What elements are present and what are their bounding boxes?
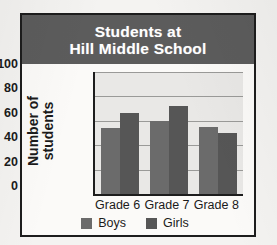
legend-label-boys: Boys [98, 216, 126, 230]
y-tick-80: 80 [4, 81, 18, 95]
chart-title-banner: Students at Hill Middle School [22, 15, 254, 64]
x-tick-grade-8: Grade 8 [194, 198, 239, 212]
y-tick-40: 40 [4, 130, 18, 144]
legend-label-girls: Girls [163, 216, 189, 230]
bar-grade-7-girls [169, 106, 188, 194]
bar-group [199, 72, 237, 194]
bar-grade-6-girls [120, 113, 139, 194]
bar-group [150, 72, 188, 194]
legend-item-girls: Girls [146, 216, 189, 230]
bar-grade-8-boys [199, 127, 218, 194]
legend-swatch-boys [81, 218, 92, 229]
plot-area-wrapper [93, 72, 241, 194]
y-tick-20: 20 [4, 155, 18, 169]
bar-group [101, 72, 139, 194]
bar-groups [95, 72, 243, 194]
plot-area [93, 72, 243, 196]
y-axis-title: Number of students [26, 76, 56, 186]
scanned-page: Students at Hill Middle School Number of… [0, 0, 277, 245]
y-tick-60: 60 [4, 106, 18, 120]
chart-body: Number of students 100806040200 Grade 6G… [22, 64, 254, 237]
chart-frame: Students at Hill Middle School Number of… [20, 13, 256, 237]
legend-item-boys: Boys [81, 216, 126, 230]
y-tick-100: 100 [0, 57, 18, 71]
y-axis-title-line-1: Number of [26, 76, 41, 186]
x-tick-grade-7: Grade 7 [144, 198, 189, 212]
chart-title-line-1: Students at [95, 23, 182, 40]
chart-title-line-2: Hill Middle School [69, 40, 206, 57]
x-axis-tick-labels: Grade 6Grade 7Grade 8 [93, 198, 241, 212]
bar-grade-8-girls [218, 133, 237, 194]
y-tick-0: 0 [11, 179, 18, 193]
y-axis-tick-labels: 100806040200 [0, 64, 18, 237]
bar-grade-7-boys [150, 121, 169, 194]
chart-legend: BoysGirls [40, 216, 230, 230]
legend-swatch-girls [146, 218, 157, 229]
y-axis-title-line-2: students [41, 76, 56, 186]
bar-grade-6-boys [101, 128, 120, 194]
x-tick-grade-6: Grade 6 [95, 198, 140, 212]
